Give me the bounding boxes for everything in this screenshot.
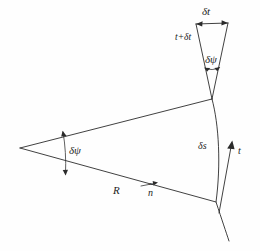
upper-radius-line [20, 99, 212, 148]
arrowhead-icon-psi-left-top [61, 131, 66, 137]
label-t-plus-delta-t: t+δt [175, 33, 191, 43]
label-delta-psi-top: δψ [205, 54, 217, 65]
arrowhead-icon-psi-left-bottom [63, 170, 68, 176]
label-normal-vector-n-hat: ˆ n [148, 188, 153, 198]
diagram-canvas [0, 0, 260, 251]
figure-root: δt t+δt δψ δψ R ˆ n δs t [0, 0, 260, 251]
arrowhead-icon-delta-t-left [196, 21, 203, 26]
arrowhead-icon-tangent [227, 141, 234, 150]
label-delta-s: δs [198, 141, 207, 151]
label-delta-t: δt [202, 6, 210, 17]
n-hat-group: ˆ n [148, 188, 153, 198]
label-radius-R: R [113, 185, 120, 196]
angle-arc-icon-left [63, 132, 66, 174]
circumflex-icon: ˆ [149, 183, 152, 192]
label-delta-psi-left: δψ [69, 145, 81, 156]
label-tangent-t: t [238, 146, 241, 156]
arrowhead-icon-delta-t-right [221, 20, 228, 25]
tangent-vector-shaft [219, 147, 231, 213]
